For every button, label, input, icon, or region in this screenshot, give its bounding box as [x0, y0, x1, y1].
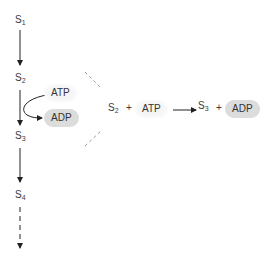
equation-atp: ATP: [135, 100, 168, 118]
equation-s2: S2: [108, 103, 119, 114]
atp-label: ATP: [44, 84, 77, 102]
zoom-guide-upper: [85, 72, 101, 88]
substrate-s2: S2: [15, 73, 26, 84]
diagram-lines: [0, 0, 265, 263]
equation-plus-1: +: [126, 103, 132, 113]
substrate-s4: S4: [15, 190, 26, 201]
equation-adp: ADP: [225, 100, 260, 118]
equation-s3: S3: [198, 101, 209, 112]
zoom-guide-lower: [85, 131, 101, 146]
equation-plus-2: +: [216, 103, 222, 113]
substrate-s1: S1: [15, 15, 26, 26]
adp-label: ADP: [44, 109, 79, 127]
substrate-s3: S3: [15, 131, 26, 142]
